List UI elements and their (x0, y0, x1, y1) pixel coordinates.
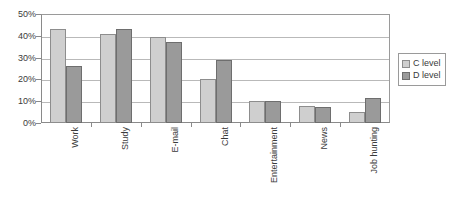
legend-item[interactable]: C level (402, 58, 441, 69)
bar (216, 60, 232, 123)
y-axis-tick-label: 50% (2, 10, 36, 19)
y-axis: 0%10%20%30%40%50% (0, 0, 36, 203)
y-axis-tick-label: 20% (2, 75, 36, 84)
bar (100, 34, 116, 123)
y-axis-tick-mark (36, 101, 41, 102)
bar (299, 106, 315, 123)
y-axis-tick-mark (36, 14, 41, 15)
x-axis-category-label: Entertainment (269, 127, 279, 183)
y-axis-tick-label: 40% (2, 31, 36, 40)
x-axis-tick-mark (290, 123, 291, 127)
y-axis-tick-mark (36, 58, 41, 59)
x-axis-category-label: Work (70, 127, 80, 148)
y-axis-tick-label: 30% (2, 53, 36, 62)
x-axis-tick-mark (191, 123, 192, 127)
x-axis-category-label: Job hunting (369, 127, 379, 174)
y-axis-tick-label: 0% (2, 119, 36, 128)
y-axis-tick-mark (36, 79, 41, 80)
bar (50, 29, 66, 123)
x-axis-category-label: Study (120, 127, 130, 150)
x-axis-tick-mark (91, 123, 92, 127)
bar-chart: 0%10%20%30%40%50% WorkStudyE-mailChatEnt… (0, 0, 464, 203)
legend-item-label: D level (413, 71, 441, 80)
bar (365, 98, 381, 123)
x-axis: WorkStudyE-mailChatEntertainmentNewsJob … (41, 127, 390, 203)
bars-layer (41, 14, 390, 123)
legend-item[interactable]: D level (402, 70, 441, 81)
x-axis-tick-mark (240, 123, 241, 127)
y-axis-tick-mark (36, 123, 41, 124)
bar (315, 107, 331, 123)
bar (66, 66, 82, 123)
x-axis-tick-mark (340, 123, 341, 127)
bar (116, 29, 132, 123)
legend-swatch-icon (402, 60, 410, 68)
x-axis-category-label: Chat (220, 127, 230, 146)
bar (200, 79, 216, 123)
x-axis-category-label: News (319, 127, 329, 150)
x-axis-tick-mark (141, 123, 142, 127)
y-axis-tick-label: 10% (2, 97, 36, 106)
bar (265, 101, 281, 123)
bar (166, 42, 182, 123)
x-axis-category-label: E-mail (170, 127, 180, 153)
chart-legend: C levelD level (398, 53, 446, 86)
legend-item-label: C level (413, 59, 441, 68)
bar (249, 101, 265, 123)
bar (349, 112, 365, 123)
bar (150, 37, 166, 123)
y-axis-tick-mark (36, 36, 41, 37)
legend-swatch-icon (402, 72, 410, 80)
